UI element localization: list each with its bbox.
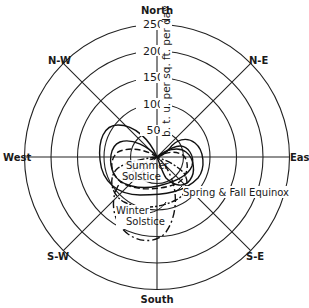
label-west: West [3, 152, 31, 163]
label-ne: N-E [249, 55, 269, 66]
label-equinox: Spring & Fall Equinox [183, 187, 289, 198]
label-east: East [290, 152, 309, 163]
radial-unit-label: b. t. u. per sq. ft. per day [160, 6, 172, 137]
label-summer-solstice-1: Summer [126, 160, 169, 171]
solar-radiation-polar-diagram: 500 1000 1500 2000 2500 b. t. u. per sq.… [0, 0, 309, 308]
label-north: North [141, 5, 173, 16]
label-summer-solstice-2: Solstice [122, 171, 161, 182]
label-nw: N-W [48, 55, 71, 66]
label-winter-solstice-2: Solstice [126, 216, 165, 227]
label-sw: S-W [47, 251, 69, 262]
label-winter-solstice-1: Winter [116, 205, 150, 216]
label-se: S-E [246, 251, 264, 262]
label-south: South [140, 294, 173, 305]
